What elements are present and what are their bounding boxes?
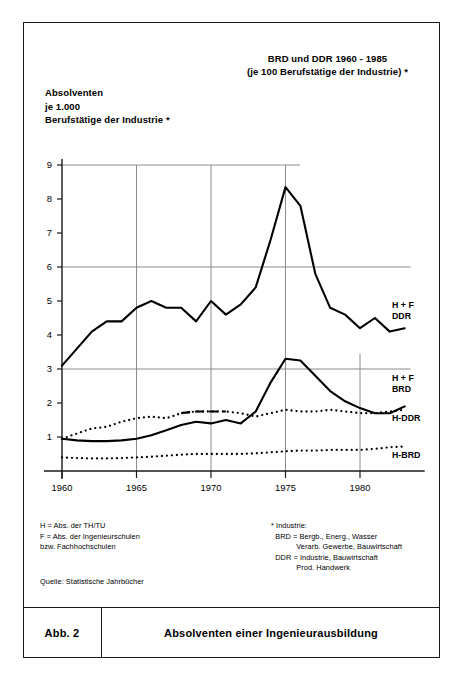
y-axis-caption-line-2: je 1.000 (45, 100, 170, 114)
figure-caption-bar: Abb. 2 Absolventen einer Ingenieurausbil… (23, 607, 440, 658)
industry-definition-note: * Industrie: BRD = Bergb., Energ., Wasse… (271, 521, 402, 574)
figure-number: Abb. 2 (23, 608, 102, 658)
chart-title: BRD und DDR 1960 - 1985 (je 100 Berufstä… (210, 52, 445, 78)
y-axis-caption: Absolventen je 1.000 Berufstätige der In… (45, 86, 170, 127)
y-axis-caption-line-3: Berufstätige der Industrie * (45, 113, 170, 127)
legend-key-note: H = Abs. der TH/TU F = Abs. der Ingenieu… (40, 521, 140, 553)
figure-caption-title: Absolventen einer Ingenieurausbildung (102, 608, 440, 658)
source-note: Quelle: Statistische Jahrbücher (40, 577, 144, 588)
y-axis-caption-line-1: Absolventen (45, 86, 170, 100)
chart-title-line-2: (je 100 Berufstätige der Industrie) * (210, 65, 445, 78)
chart-title-line-1: BRD und DDR 1960 - 1985 (210, 52, 445, 65)
